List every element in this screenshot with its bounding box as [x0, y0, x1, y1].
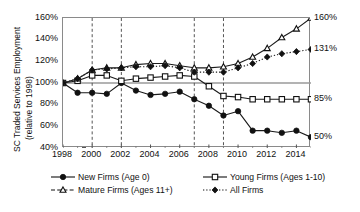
legend-marker-filled-diamond-icon — [202, 185, 228, 195]
series-line-0 — [63, 83, 311, 137]
data-point — [221, 113, 226, 118]
data-point — [221, 93, 226, 98]
data-point — [162, 74, 167, 79]
series-1 — [63, 73, 311, 102]
y-tick-label: 100% — [28, 78, 58, 87]
data-point — [308, 97, 311, 102]
data-point — [250, 60, 256, 66]
series-line-2 — [63, 18, 311, 83]
legend-marker — [60, 187, 66, 192]
plot-svg — [63, 18, 311, 148]
legend-marker-open-square-icon — [202, 172, 228, 182]
data-point — [192, 97, 197, 102]
legend-symbol-svg — [202, 172, 228, 182]
data-point — [308, 134, 311, 139]
x-tick-label: 2008 — [193, 149, 223, 159]
data-point — [308, 46, 311, 52]
legend-symbol-svg — [202, 185, 228, 195]
data-point — [177, 89, 182, 94]
y-tick-label: 160% — [28, 13, 58, 22]
data-point — [279, 51, 285, 57]
data-point — [264, 45, 270, 50]
data-point — [162, 91, 167, 96]
x-tick-label: 2000 — [76, 149, 106, 159]
data-point — [104, 66, 110, 72]
y-tick-label: 120% — [28, 56, 58, 65]
data-point — [177, 73, 182, 78]
legend-marker — [212, 174, 217, 179]
data-point — [89, 90, 94, 95]
x-tick-label: 2006 — [164, 149, 194, 159]
data-point — [279, 130, 284, 135]
chart-legend: New Firms (Age 0)Young Firms (Ages 1-10)… — [50, 172, 350, 206]
legend-symbol-svg — [50, 185, 76, 195]
legend-label: Young Firms (Ages 1-10) — [230, 172, 325, 182]
y-axis-title-line1: SC Traded Services Employment — [12, 27, 22, 152]
data-point — [75, 90, 80, 95]
legend-marker — [60, 174, 65, 179]
data-point — [221, 69, 227, 75]
data-point — [148, 75, 153, 80]
y-tick-label: 80% — [28, 99, 58, 108]
data-point — [294, 128, 299, 133]
x-tick-label: 2014 — [280, 149, 310, 159]
y-tick-label: 60% — [28, 121, 58, 130]
legend-marker-filled-circle-icon — [50, 172, 76, 182]
data-point — [279, 97, 284, 102]
legend-item[interactable]: All Firms — [202, 185, 263, 195]
endpoint-label: 131% — [314, 44, 337, 53]
data-point — [265, 128, 270, 133]
data-point — [250, 97, 255, 102]
data-point — [264, 54, 270, 60]
data-point — [250, 54, 256, 59]
data-point — [235, 94, 240, 99]
data-point — [294, 97, 299, 102]
data-point — [294, 48, 300, 54]
legend-marker — [212, 187, 218, 193]
data-point — [133, 88, 138, 93]
x-tick-label: 2004 — [135, 149, 165, 159]
legend-label: Mature Firms (Ages 11+) — [78, 185, 173, 195]
data-point — [104, 73, 109, 78]
data-point — [133, 76, 138, 81]
data-point — [220, 64, 226, 69]
endpoint-label: 160% — [314, 13, 337, 22]
x-tick-label: 2012 — [251, 149, 281, 159]
x-tick-label: 1998 — [47, 149, 77, 159]
y-tick-label: 140% — [28, 34, 58, 43]
data-point — [265, 97, 270, 102]
data-point — [206, 84, 211, 89]
legend-marker-open-triangle-icon — [50, 185, 76, 195]
y-axis-tick-labels: 40%60%80%100%120%140%160% — [24, 0, 58, 160]
data-point — [206, 103, 211, 108]
legend-label: All Firms — [230, 185, 263, 195]
chart-figure: SC Traded Services Employment (relative … — [0, 0, 360, 212]
data-point — [250, 128, 255, 133]
endpoint-label: 50% — [314, 132, 332, 141]
data-point — [235, 108, 240, 113]
legend-item[interactable]: New Firms (Age 0) — [50, 172, 150, 182]
data-point — [148, 92, 153, 97]
data-point — [119, 78, 124, 83]
data-point — [308, 18, 311, 20]
data-point — [293, 26, 299, 31]
legend-symbol-svg — [50, 172, 76, 182]
data-point — [104, 91, 109, 96]
endpoint-label: 85% — [314, 94, 332, 103]
plot-area — [62, 17, 310, 147]
x-tick-label: 2002 — [105, 149, 135, 159]
x-tick-label: 2010 — [222, 149, 252, 159]
legend-item[interactable]: Young Firms (Ages 1-10) — [202, 172, 325, 182]
legend-item[interactable]: Mature Firms (Ages 11+) — [50, 185, 173, 195]
legend-label: New Firms (Age 0) — [78, 172, 150, 182]
data-point — [279, 34, 285, 39]
series-0 — [63, 80, 311, 140]
